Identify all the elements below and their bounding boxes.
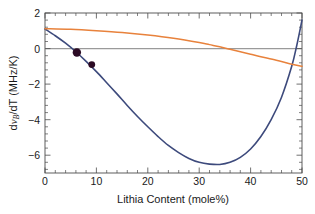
- blue-curve: [45, 20, 302, 164]
- x-tick-label: 30: [193, 175, 205, 187]
- svg-text:dνB/dT (MHz/K): dνB/dT (MHz/K): [7, 56, 21, 131]
- data-point-1: [73, 48, 81, 56]
- x-tick-label: 0: [42, 175, 48, 187]
- x-axis-top-ticks: [45, 13, 302, 19]
- y-tick-label: 0: [34, 43, 40, 55]
- x-tick-label: 50: [296, 175, 308, 187]
- x-axis-major-ticks: [45, 168, 302, 174]
- y-tick-label: 2: [34, 7, 40, 19]
- y-tick-label: −2: [28, 78, 40, 90]
- y-tick-label: −4: [28, 114, 40, 126]
- y-axis-title: dνB/dT (MHz/K): [7, 56, 21, 131]
- data-series-group: [45, 20, 302, 164]
- x-axis-tick-labels: 0 10 20 30 40 50: [42, 175, 308, 187]
- y-axis-tick-labels: 2 0 −2 −4 −6: [28, 7, 40, 161]
- y-axis-title-suffix: /dT (MHz/K): [7, 56, 19, 115]
- chart-figure: 0 10 20 30 40 50 2 0 −2 −4 −6 Lithia Con…: [0, 0, 315, 214]
- orange-curve: [45, 29, 302, 67]
- data-point-2: [88, 61, 95, 68]
- chart-plot-area: 0 10 20 30 40 50 2 0 −2 −4 −6 Lithia Con…: [0, 0, 315, 214]
- x-axis-title: Lithia Content (mole%): [117, 193, 229, 205]
- y-tick-label: −6: [28, 149, 40, 161]
- x-tick-label: 20: [142, 175, 154, 187]
- x-tick-label: 10: [91, 175, 103, 187]
- x-tick-label: 40: [245, 175, 257, 187]
- data-points-group: [73, 48, 95, 68]
